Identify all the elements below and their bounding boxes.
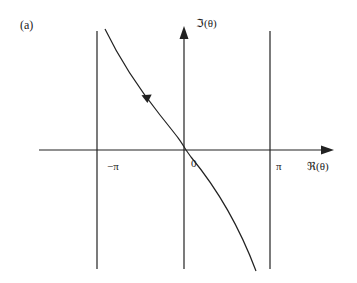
- tick-zero: 0: [191, 158, 197, 169]
- tick-neg-pi: −π: [107, 161, 119, 172]
- imaginary-axis-arrowhead-icon: [180, 26, 189, 39]
- tick-pi: π: [276, 161, 282, 172]
- curve-upper-branch: [105, 29, 186, 150]
- complex-plane-diagram: [0, 0, 357, 283]
- imaginary-axis-label: ℑ(θ): [196, 18, 217, 29]
- real-axis-arrowhead-icon: [321, 146, 334, 155]
- panel-label: (a): [20, 19, 33, 31]
- real-axis-label: ℜ(θ): [307, 161, 329, 172]
